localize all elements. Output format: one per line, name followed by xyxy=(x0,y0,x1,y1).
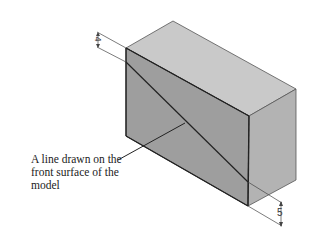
dimension-label-4: 4 xyxy=(93,36,103,41)
caption-line-2: front surface of the xyxy=(31,166,151,179)
caption-line-1: A line drawn on the xyxy=(31,153,151,166)
box-model-drawing xyxy=(0,0,317,239)
caption-line-3: model xyxy=(31,179,151,192)
figure-caption: A line drawn on the front surface of the… xyxy=(31,153,151,192)
dimension-label-5: 5 xyxy=(277,207,283,218)
